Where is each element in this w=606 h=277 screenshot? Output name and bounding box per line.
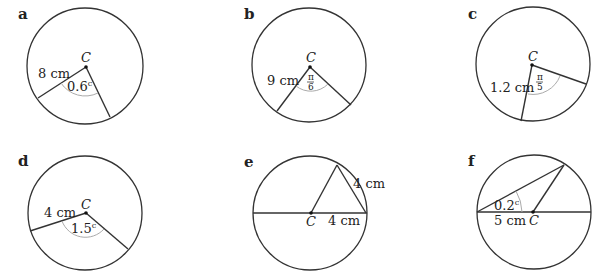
centre-label: C xyxy=(529,213,539,228)
chord-line xyxy=(477,165,564,212)
centre-label: C xyxy=(528,49,538,64)
angle-denominator: 6 xyxy=(308,82,314,92)
part-label-b: b xyxy=(244,5,255,23)
diagram-f: f C 0.2c 5 cm xyxy=(468,152,591,269)
angle-label: 1.5c xyxy=(71,221,97,236)
radius-label: 1.2 cm xyxy=(490,80,534,95)
part-label-f: f xyxy=(468,152,476,170)
part-label-d: d xyxy=(18,152,29,170)
part-label-a: a xyxy=(18,5,28,23)
radius-line xyxy=(86,213,128,249)
diagram-c: c C 1.2 cm π 5 xyxy=(468,5,590,121)
part-label-c: c xyxy=(468,5,477,23)
radius-label: 4 cm xyxy=(328,213,360,228)
radius-label: 4 cm xyxy=(44,205,76,220)
angle-label: 0.2c xyxy=(494,198,520,213)
angle-label: 0.6c xyxy=(67,79,93,94)
angle-denominator: 5 xyxy=(537,82,543,92)
centre-label: C xyxy=(306,50,316,65)
radius-line xyxy=(533,165,564,212)
centre-point xyxy=(308,65,312,69)
part-label-e: e xyxy=(244,153,254,171)
diagram-e: e C 4 cm 4 cm xyxy=(244,153,385,270)
centre-label: C xyxy=(306,214,316,229)
angle-numerator: π xyxy=(537,72,543,82)
radius-line xyxy=(86,67,110,117)
radius-line xyxy=(311,165,337,213)
chord-label: 4 cm xyxy=(353,176,385,191)
radius-label: 9 cm xyxy=(267,73,299,88)
angle-numerator: π xyxy=(308,72,314,82)
radius-label: 5 cm xyxy=(494,213,526,228)
diagram-canvas: a C 8 cm 0.6c b C 9 cm π 6 c C 1.2 cm π … xyxy=(0,0,606,277)
centre-label: C xyxy=(81,50,91,65)
centre-point xyxy=(84,65,88,69)
radius-line xyxy=(310,67,351,105)
circle-b xyxy=(252,8,366,122)
diagram-d: d C 4 cm 1.5c xyxy=(18,152,142,270)
centre-label: C xyxy=(81,197,91,212)
radius-label: 8 cm xyxy=(38,66,70,81)
diagram-a: a C 8 cm 0.6c xyxy=(18,5,143,124)
diagram-b: b C 9 cm π 6 xyxy=(244,5,366,122)
